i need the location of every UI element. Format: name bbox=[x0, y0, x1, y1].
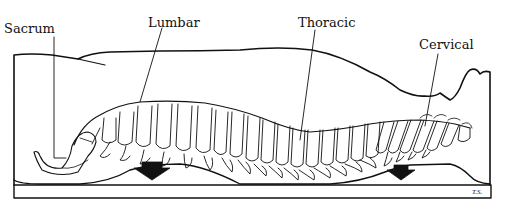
label-thoracic: Thoracic bbox=[298, 16, 356, 29]
base-board bbox=[14, 185, 491, 198]
spine-diagram: Sacrum Lumbar Thoracic Cervical T.S. bbox=[0, 0, 505, 209]
body-fold bbox=[78, 59, 105, 65]
label-sacrum: Sacrum bbox=[4, 22, 55, 35]
lumbar-leader bbox=[140, 28, 162, 102]
vertebrae bbox=[102, 104, 470, 167]
support-curve bbox=[14, 164, 490, 184]
thoracic-leader bbox=[300, 30, 315, 140]
artist-signature: T.S. bbox=[472, 188, 482, 196]
label-cervical: Cervical bbox=[419, 38, 474, 51]
cervical-leader bbox=[425, 54, 438, 126]
diagram-drawing bbox=[0, 0, 505, 209]
arrow-cervical bbox=[387, 165, 415, 180]
label-lumbar: Lumbar bbox=[148, 16, 200, 29]
